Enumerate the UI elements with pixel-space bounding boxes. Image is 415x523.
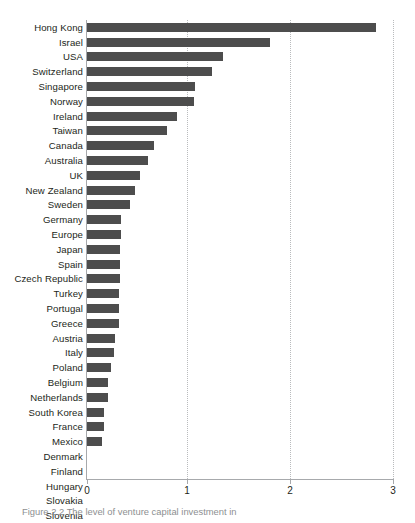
bar-row: UK — [0, 168, 415, 183]
category-label: Singapore — [0, 81, 83, 92]
category-label: Japan — [0, 244, 83, 255]
bar-row: Netherlands — [0, 390, 415, 405]
category-label: Norway — [0, 96, 83, 107]
bar-track — [87, 50, 415, 65]
bar — [87, 245, 120, 254]
bar — [87, 200, 130, 209]
bar-row: Finland — [0, 464, 415, 479]
bar-row: Europe — [0, 227, 415, 242]
bar — [87, 52, 223, 61]
category-label: Spain — [0, 259, 83, 270]
bar-track — [87, 227, 415, 242]
category-label: Hungary — [0, 481, 83, 492]
bar-track — [87, 464, 415, 479]
bar-row: Poland — [0, 360, 415, 375]
bar-row: Taiwan — [0, 124, 415, 139]
bar — [87, 67, 212, 76]
bar-rows: Hong KongIsraelUSASwitzerlandSingaporeNo… — [0, 20, 415, 523]
bar-track — [87, 168, 415, 183]
bar — [87, 289, 119, 298]
bar-track — [87, 198, 415, 213]
bar-track — [87, 420, 415, 435]
bar-row: Mexico — [0, 434, 415, 449]
figure-caption: Figure 2.2 The level of venture capital … — [22, 506, 402, 518]
bar-row: Turkey — [0, 286, 415, 301]
bar-track — [87, 479, 415, 494]
bar — [87, 378, 108, 387]
bar-track — [87, 405, 415, 420]
bar-row: Switzerland — [0, 64, 415, 79]
category-label: Canada — [0, 140, 83, 151]
bar — [87, 141, 154, 150]
category-label: France — [0, 421, 83, 432]
bar-row: France — [0, 420, 415, 435]
bar-row: Israel — [0, 35, 415, 50]
bar-track — [87, 64, 415, 79]
category-label: Europe — [0, 229, 83, 240]
bar-row: Denmark — [0, 449, 415, 464]
category-label: Austria — [0, 333, 83, 344]
bar-row: South Korea — [0, 405, 415, 420]
bar — [87, 437, 102, 446]
bar-row: Hungary — [0, 479, 415, 494]
category-label: Slovakia — [0, 495, 83, 506]
bar-track — [87, 183, 415, 198]
category-label: Hong Kong — [0, 22, 83, 33]
bar-row: Australia — [0, 153, 415, 168]
bar-row: USA — [0, 50, 415, 65]
category-label: Turkey — [0, 288, 83, 299]
category-label: South Korea — [0, 407, 83, 418]
category-label: New Zealand — [0, 185, 83, 196]
bar-track — [87, 79, 415, 94]
bar-row: Italy — [0, 346, 415, 361]
bar-row: Canada — [0, 138, 415, 153]
bar-row: Norway — [0, 94, 415, 109]
bar — [87, 97, 194, 106]
bar-track — [87, 316, 415, 331]
bar-track — [87, 153, 415, 168]
category-label: Germany — [0, 214, 83, 225]
bar-track — [87, 257, 415, 272]
bar-track — [87, 138, 415, 153]
category-label: Ireland — [0, 111, 83, 122]
bar-row: Germany — [0, 212, 415, 227]
bar — [87, 156, 148, 165]
bar — [87, 38, 270, 47]
bar — [87, 23, 376, 32]
category-label: Poland — [0, 362, 83, 373]
bar — [87, 422, 104, 431]
bar-track — [87, 301, 415, 316]
bar-track — [87, 331, 415, 346]
bar-track — [87, 94, 415, 109]
bar-track — [87, 212, 415, 227]
category-label: UK — [0, 170, 83, 181]
category-label: Netherlands — [0, 392, 83, 403]
bar-track — [87, 434, 415, 449]
bar — [87, 260, 120, 269]
category-label: Mexico — [0, 436, 83, 447]
category-label: USA — [0, 51, 83, 62]
category-label: Greece — [0, 318, 83, 329]
bar — [87, 408, 104, 417]
bar-track — [87, 35, 415, 50]
category-label: Switzerland — [0, 66, 83, 77]
bar — [87, 334, 115, 343]
bar — [87, 230, 121, 239]
bar-track — [87, 375, 415, 390]
bar-track — [87, 20, 415, 35]
category-label: Belgium — [0, 377, 83, 388]
bar — [87, 304, 119, 313]
category-label: Portugal — [0, 303, 83, 314]
category-label: Czech Republic — [0, 273, 83, 284]
category-label: Italy — [0, 347, 83, 358]
bar — [87, 274, 120, 283]
bar-row: Czech Republic — [0, 272, 415, 287]
bar — [87, 112, 177, 121]
bar — [87, 82, 195, 91]
bar — [87, 393, 108, 402]
bar — [87, 186, 135, 195]
bar — [87, 319, 119, 328]
bar-row: Japan — [0, 242, 415, 257]
category-label: Taiwan — [0, 125, 83, 136]
